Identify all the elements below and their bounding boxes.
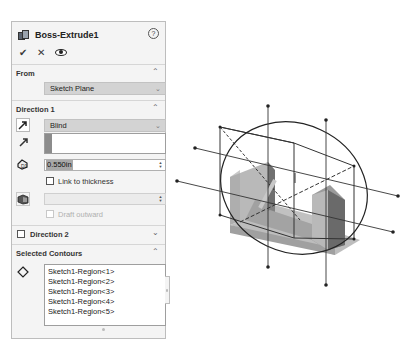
axis-endpoints[interactable]: [175, 104, 400, 287]
draft-icon: [17, 193, 29, 205]
end-condition-value: Blind: [50, 121, 67, 130]
action-bar: ✔ ✕: [19, 46, 67, 58]
contour-diamond-icon: [17, 266, 29, 278]
from-select[interactable]: Sketch Plane ⌄: [44, 82, 166, 95]
draft-outward-label: Draft outward: [58, 210, 103, 219]
help-icon[interactable]: ?: [148, 28, 159, 39]
from-section-title: From: [16, 69, 35, 78]
resize-handle[interactable]: [102, 328, 105, 331]
divider: [12, 244, 165, 245]
depth-input[interactable]: 0.550in ▲▼: [44, 159, 166, 171]
reverse-direction-arrow-icon: [17, 119, 29, 131]
direction1-section-title: Direction 1: [16, 105, 55, 114]
contour-item[interactable]: Sketch1-Region<3>: [45, 287, 114, 297]
direction2-section-title: Direction 2: [30, 230, 69, 239]
panel-header: Boss-Extrude1 ?: [18, 28, 159, 42]
divider: [12, 225, 165, 226]
draft-spinner[interactable]: ▲▼: [157, 195, 164, 203]
property-manager-panel: Boss-Extrude1 ? ✔ ✕ From ⌃ Sketch Plane …: [11, 21, 166, 339]
ok-button[interactable]: ✔: [19, 47, 27, 58]
expand-direction2-chevron-down-icon[interactable]: ⌄: [152, 228, 159, 237]
collapse-direction1-chevron-up-icon[interactable]: ⌃: [152, 103, 159, 112]
depth-icon: D1: [16, 158, 30, 170]
link-to-thickness-checkbox[interactable]: [46, 177, 54, 185]
selected-contours-title: Selected Contours: [16, 249, 82, 258]
draft-outward-checkbox[interactable]: [46, 210, 54, 218]
contour-item[interactable]: Sketch1-Region<1>: [45, 267, 114, 277]
end-condition-select[interactable]: Blind ⌄: [44, 119, 166, 132]
draft-angle-input[interactable]: ▲▼: [44, 193, 166, 205]
depth-spinner[interactable]: ▲▼: [157, 161, 164, 169]
reverse-direction-button[interactable]: [16, 118, 30, 132]
collapse-contours-chevron-up-icon[interactable]: ⌃: [152, 247, 159, 256]
link-to-thickness-label: Link to thickness: [58, 177, 113, 186]
contour-item[interactable]: Sketch1-Region<4>: [45, 297, 114, 307]
contour-item[interactable]: Sketch1-Region<2>: [45, 277, 114, 287]
divider: [12, 64, 165, 65]
feature-title: Boss-Extrude1: [35, 30, 99, 40]
axis-lines: [177, 106, 398, 285]
draft-toggle-button[interactable]: [16, 192, 30, 206]
preview-eye-icon[interactable]: [55, 49, 67, 56]
collapse-from-chevron-up-icon[interactable]: ⌃: [152, 67, 159, 76]
chevron-down-icon: ⌄: [155, 120, 161, 131]
depth-value: 0.550in: [46, 160, 73, 170]
divider: [12, 100, 165, 101]
direction-vector-arrow-icon: [18, 136, 30, 148]
boss-extrude-icon: [18, 30, 30, 41]
direction-reference-box[interactable]: [44, 133, 166, 154]
from-select-value: Sketch Plane: [50, 84, 94, 93]
svg-text:D1: D1: [21, 163, 28, 169]
contour-item[interactable]: Sketch1-Region<5>: [45, 307, 114, 317]
direction2-checkbox[interactable]: [17, 230, 25, 238]
reference-color-strip: [45, 134, 52, 153]
chevron-down-icon: ⌄: [155, 83, 161, 94]
contours-list[interactable]: Sketch1-Region<1> Sketch1-Region<2> Sket…: [44, 264, 166, 326]
cancel-button[interactable]: ✕: [37, 47, 45, 58]
graphics-viewport[interactable]: [170, 100, 417, 300]
